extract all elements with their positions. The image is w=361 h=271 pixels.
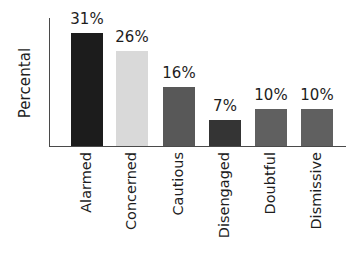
category-label-text: Alarmed xyxy=(79,152,94,213)
plot-area: 31%26%16%7%10%10% xyxy=(49,18,346,146)
category-label-slot: Dismissive xyxy=(301,150,333,265)
bar-value-label: 26% xyxy=(102,29,162,46)
category-label-slot: Disengaged xyxy=(209,150,241,265)
category-label-text: Doubtful xyxy=(263,152,278,214)
bar-value-label: 16% xyxy=(149,65,209,82)
category-label-text: Disengaged xyxy=(217,152,232,238)
category-label-slot: Concerned xyxy=(116,150,148,265)
y-axis-title: Percental xyxy=(16,18,34,148)
bar-rect[interactable] xyxy=(163,87,195,146)
category-label-slot: Doubtful xyxy=(255,150,287,265)
bar-rect[interactable] xyxy=(209,120,241,146)
category-label-slot: Cautious xyxy=(163,150,195,265)
bar-rect[interactable] xyxy=(301,109,333,146)
bar-chart-figure: Percental 31%26%16%7%10%10% AlarmedConce… xyxy=(0,0,361,271)
category-label-text: Concerned xyxy=(124,152,139,230)
bar-value-label: 31% xyxy=(57,11,117,28)
category-label-text: Dismissive xyxy=(309,152,324,230)
bar-rect[interactable] xyxy=(71,33,103,146)
bar-value-label: 10% xyxy=(287,87,347,104)
category-label-text: Cautious xyxy=(171,152,186,216)
x-axis-line xyxy=(49,146,346,147)
bar-rect[interactable] xyxy=(255,109,287,146)
category-axis-labels: AlarmedConcernedCautiousDisengagedDoubtf… xyxy=(49,150,346,265)
bar-rect[interactable] xyxy=(116,51,148,146)
category-label-slot: Alarmed xyxy=(71,150,103,265)
